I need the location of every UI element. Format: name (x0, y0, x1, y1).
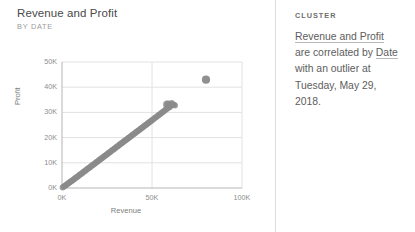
insight-panel: CLUSTER Revenue and Profit are correlate… (276, 0, 415, 232)
insight-measure-link[interactable]: Revenue and Profit (295, 31, 384, 43)
scatter-series-outlier (202, 76, 210, 84)
outlier-point[interactable] (202, 76, 210, 84)
insight-text-segment-4: with an outlier at Tuesday, May 29, 2018… (295, 63, 376, 106)
y-tick-label: 50K (29, 57, 57, 66)
insight-kicker: CLUSTER (295, 11, 401, 20)
insight-dimension-link[interactable]: Date (376, 47, 398, 59)
x-tick-label: 0K (58, 193, 67, 202)
scatter-plot[interactable]: Profit Revenue 0K10K20K30K40K50K 0K50K10… (0, 0, 275, 232)
data-point[interactable] (167, 104, 173, 110)
scatter-series-main (60, 100, 178, 191)
y-tick-label: 10K (29, 158, 57, 167)
y-axis-title: Profit (13, 87, 22, 105)
insight-text-segment-2: are correlated by (295, 47, 376, 58)
x-tick-label: 50K (146, 193, 159, 202)
insight-text: Revenue and Profit are correlated by Dat… (295, 29, 401, 110)
y-tick-label: 0K (29, 183, 57, 192)
insight-card: Revenue and Profit BY DATE Profit Revenu… (0, 0, 415, 232)
y-tick-label: 20K (29, 133, 57, 142)
x-tick-label: 100K (234, 193, 251, 202)
x-axis-title: Revenue (0, 206, 252, 215)
y-tick-label: 30K (29, 107, 57, 116)
y-tick-label: 40K (29, 82, 57, 91)
chart-panel: Revenue and Profit BY DATE Profit Revenu… (0, 0, 275, 232)
